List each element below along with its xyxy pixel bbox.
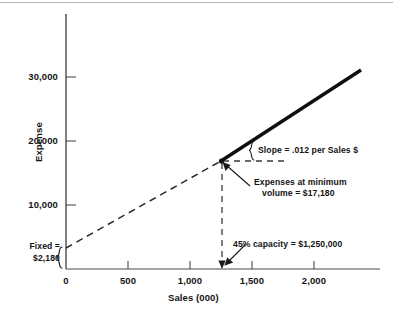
- expenses-leader-arrowhead: [223, 162, 231, 171]
- extrapolated-cost-line: [66, 161, 221, 248]
- expenses-leader-line: [226, 165, 250, 186]
- x-tick-label-1500: 1,500: [230, 275, 274, 286]
- annotation-expenses-line2: volume = $17,180: [262, 188, 335, 199]
- y-tick-label-30000: 30,000: [8, 71, 58, 82]
- x-tick-label-500: 500: [108, 275, 148, 286]
- annotation-slope: Slope = .012 per Sales $: [258, 145, 358, 156]
- dropline-arrowhead: [218, 261, 225, 270]
- annotation-fixed-line1: Fixed =: [14, 241, 60, 252]
- figure-container: 30,000 20,000 10,000 Expense 0 500 1,000…: [0, 0, 393, 311]
- annotation-fixed-line2: $2,180: [8, 253, 60, 264]
- x-tick-label-1000: 1,000: [168, 275, 212, 286]
- y-axis-ticks: [66, 77, 76, 205]
- annotation-capacity: 45% capacity = $1,250,000: [233, 239, 342, 250]
- x-tick-label-0: 0: [46, 275, 86, 286]
- y-axis-title: Expense: [33, 122, 44, 162]
- y-tick-label-10000: 10,000: [8, 199, 58, 210]
- x-axis-title: Sales (000): [168, 292, 219, 303]
- annotation-expenses-line1: Expenses at minimum: [254, 177, 347, 188]
- x-tick-label-2000: 2,000: [292, 275, 336, 286]
